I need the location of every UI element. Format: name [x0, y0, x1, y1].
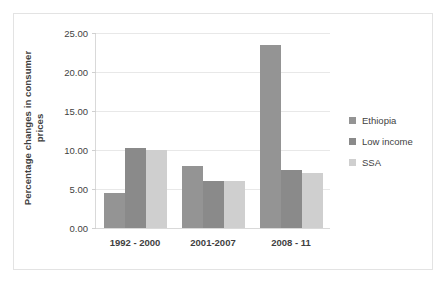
bar-ethiopia [182, 166, 203, 228]
bar-ssa [224, 181, 245, 228]
legend-swatch-icon [349, 117, 356, 124]
bar-ssa [146, 150, 167, 228]
plot-area: 0.005.0010.0015.0020.0025.00 1992 - 2000… [95, 33, 330, 229]
y-axis-tick-label: 5.00 [70, 184, 89, 195]
y-axis-title-line-1: Percentage changes in consumer [22, 28, 34, 228]
chart-figure: Percentage changes in consumer prices 0.… [0, 0, 445, 283]
gridline-0.00 [96, 228, 330, 229]
bar-low-income [203, 181, 224, 228]
legend-label: Ethiopia [362, 115, 396, 126]
y-axis-title-line-2: prices [34, 28, 46, 228]
bar-group [260, 33, 323, 228]
bar-low-income [125, 148, 146, 228]
y-axis-tick-label: 20.00 [64, 67, 88, 78]
x-axis-tick-label: 2001-2007 [190, 237, 235, 248]
legend-label: Low income [362, 136, 413, 147]
bar-ethiopia [104, 193, 125, 228]
y-axis-tick-label: 0.00 [70, 223, 89, 234]
y-tick-mark [92, 228, 96, 229]
y-axis-title: Percentage changes in consumer prices [22, 0, 52, 28]
legend-item-ethiopia: Ethiopia [349, 110, 429, 131]
bar-low-income [281, 170, 302, 229]
legend-item-ssa: SSA [349, 152, 429, 173]
bars-layer [96, 33, 330, 228]
y-axis-tick-label: 25.00 [64, 28, 88, 39]
y-axis-tick-label: 10.00 [64, 145, 88, 156]
x-axis-tick-label: 2008 - 11 [271, 237, 311, 248]
bar-ethiopia [260, 45, 281, 228]
legend-label: SSA [362, 157, 381, 168]
bar-ssa [302, 173, 323, 228]
bar-group [182, 33, 245, 228]
legend-item-low-income: Low income [349, 131, 429, 152]
legend-swatch-icon [349, 138, 356, 145]
chart-legend: EthiopiaLow incomeSSA [349, 110, 429, 173]
legend-swatch-icon [349, 159, 356, 166]
x-axis-tick-label: 1992 - 2000 [110, 237, 161, 248]
bar-group [104, 33, 167, 228]
y-axis-tick-label: 15.00 [64, 106, 88, 117]
